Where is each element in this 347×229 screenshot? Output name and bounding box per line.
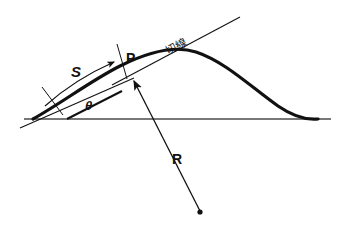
radius-label: R bbox=[172, 152, 182, 166]
curve-path bbox=[33, 49, 318, 119]
arc-length-label: S bbox=[71, 64, 81, 79]
center-of-curvature-dot bbox=[197, 209, 202, 214]
chord-line bbox=[20, 78, 134, 128]
geometry-diagram: S P θ R 切線 bbox=[0, 0, 347, 229]
point-label: P bbox=[126, 51, 135, 65]
radius-line-r bbox=[134, 81, 200, 211]
diagram-canvas bbox=[0, 0, 347, 229]
angle-label: θ bbox=[85, 99, 92, 112]
